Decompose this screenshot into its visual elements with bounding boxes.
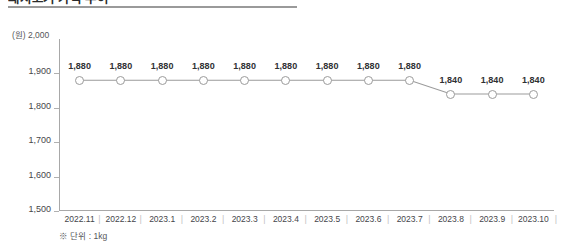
- y-axis-tick-label: 1,500: [28, 204, 51, 214]
- x-axis-category-label: 2023.9: [472, 214, 513, 224]
- x-axis-category-label: 2023.4: [265, 214, 306, 224]
- series-markers: 1,8801,8801,8801,8801,8801,8801,8801,880…: [59, 39, 554, 211]
- y-axis-tick-label: 1,700: [28, 135, 51, 145]
- data-point-label: 1,880: [275, 61, 298, 71]
- data-point-label: 1,880: [398, 61, 421, 71]
- data-point-marker[interactable]: [364, 76, 373, 85]
- data-point-label: 1,840: [440, 75, 463, 85]
- data-point-label: 1,840: [481, 75, 504, 85]
- x-axis-category-label: 2023.6: [348, 214, 389, 224]
- data-point-label: 1,880: [151, 61, 174, 71]
- x-axis-category-label: 2023.7: [389, 214, 430, 224]
- data-point-label: 1,840: [522, 75, 545, 85]
- data-point-label: 1,880: [316, 61, 339, 71]
- x-axis-category-label: 2022.11: [59, 214, 100, 224]
- x-axis-category-label: 2023.5: [307, 214, 348, 224]
- x-axis-labels: 2022.112022.122023.12023.22023.32023.420…: [59, 212, 554, 226]
- data-point-label: 1,880: [110, 61, 133, 71]
- data-point-label: 1,880: [192, 61, 215, 71]
- x-axis-category-label: 2023.2: [183, 214, 224, 224]
- data-point-marker[interactable]: [75, 76, 84, 85]
- y-axis-tick-label: 1,600: [28, 170, 51, 180]
- x-axis-category-label: 2022.12: [100, 214, 141, 224]
- x-axis-category-label: 2023.1: [142, 214, 183, 224]
- data-point-label: 1,880: [233, 61, 256, 71]
- data-point-marker[interactable]: [240, 76, 249, 85]
- data-point-label: 1,880: [68, 61, 91, 71]
- x-axis-category-label: 2023.10|: [513, 214, 554, 224]
- chart-footnote: ※ 단위 : 1kg: [59, 229, 107, 241]
- data-point-marker[interactable]: [488, 90, 497, 99]
- data-point-marker[interactable]: [116, 76, 125, 85]
- y-axis-tick-label: 1,900: [28, 66, 51, 76]
- data-point-marker[interactable]: [405, 76, 414, 85]
- plot-area: 1,9001,8001,7001,6001,500 1,8801,8801,88…: [59, 39, 554, 211]
- y-axis-tick-label: 1,800: [28, 101, 51, 111]
- data-point-label: 1,880: [357, 61, 380, 71]
- data-point-marker[interactable]: [281, 76, 290, 85]
- data-point-marker[interactable]: [446, 90, 455, 99]
- title-divider: [8, 6, 297, 8]
- data-point-marker[interactable]: [529, 90, 538, 99]
- x-axis-category-label: 2023.8: [430, 214, 471, 224]
- data-point-marker[interactable]: [199, 76, 208, 85]
- data-point-marker[interactable]: [158, 76, 167, 85]
- x-axis-category-label: 2023.3: [224, 214, 265, 224]
- data-point-marker[interactable]: [323, 76, 332, 85]
- y-axis-unit-caption: (원) 2,000: [12, 28, 49, 40]
- x-axis-separator: |: [555, 214, 557, 224]
